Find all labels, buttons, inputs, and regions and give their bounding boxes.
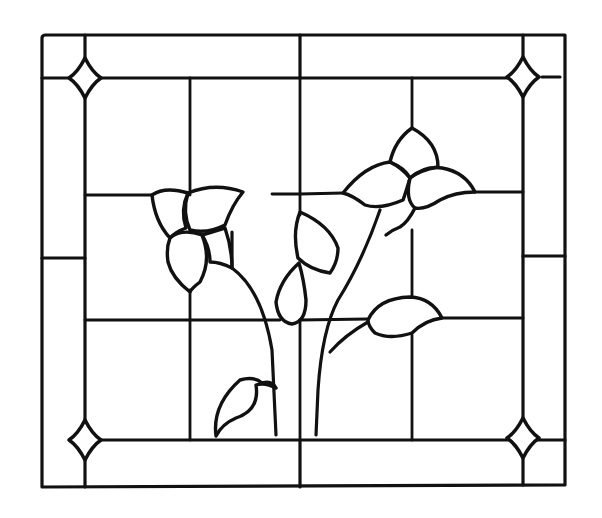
right-flower bbox=[343, 128, 475, 235]
center-leaf-upper bbox=[295, 212, 338, 273]
right-leaf bbox=[368, 297, 442, 337]
left-flower bbox=[152, 187, 243, 292]
corner-jewel-top-right bbox=[507, 57, 539, 97]
stained-glass-pattern bbox=[0, 0, 602, 518]
interior-grid bbox=[85, 78, 523, 440]
pattern-drawing bbox=[0, 0, 602, 518]
bottom-bud bbox=[216, 379, 277, 436]
center-leaf-lower bbox=[276, 263, 306, 324]
corner-jewel-bottom-left bbox=[69, 420, 101, 460]
corner-jewel-top-left bbox=[69, 58, 101, 98]
corner-jewel-bottom-right bbox=[507, 418, 539, 458]
